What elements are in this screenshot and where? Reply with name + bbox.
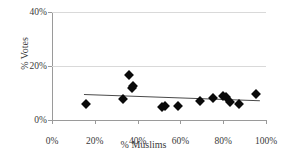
data-point [208,93,218,103]
y-axis-tick [48,66,52,67]
gridline-y [52,66,266,67]
gridline-y [52,12,266,13]
y-axis-tick-label: 40% [30,7,47,17]
x-axis-line [52,120,267,121]
x-axis-tick [180,120,181,124]
x-axis-tick [95,120,96,124]
data-point [81,99,91,109]
y-axis-title: % Votes [19,24,30,84]
scatter-chart: 0%20%40%0%20%40%60%80%100% % Votes % Mus… [0,0,287,158]
plot-area: 0%20%40%0%20%40%60%80%100% [52,12,266,120]
data-point [251,89,261,99]
data-point [173,101,183,111]
data-point [124,70,134,80]
x-axis-tick [52,120,53,124]
x-axis-title: % Muslims [0,139,287,150]
y-axis-tick [48,12,52,13]
y-axis-tick-label: 20% [30,61,47,71]
x-axis-tick [266,120,267,124]
x-axis-tick [138,120,139,124]
y-axis-tick-label: 0% [34,115,47,125]
x-axis-tick [223,120,224,124]
